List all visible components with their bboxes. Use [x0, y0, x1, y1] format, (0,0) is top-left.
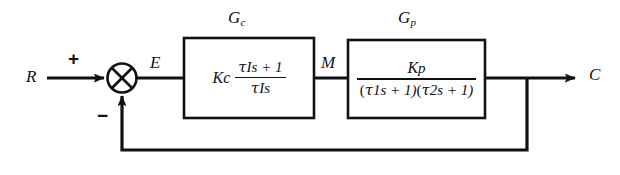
- process-den-factor-2-rest: s + 1): [437, 82, 473, 98]
- controller-label-subscript: c: [240, 16, 245, 28]
- controller-transfer-function: Kc τIs + 1 τIs: [184, 38, 314, 118]
- process-den-tau-2: τ: [422, 81, 430, 99]
- process-denominator: (τ1s + 1)(τ2s + 1): [357, 80, 477, 98]
- process-label-subscript: p: [410, 16, 416, 28]
- controller-block-label: Gc: [228, 9, 245, 28]
- process-label-base: G: [398, 8, 410, 27]
- process-den-tau-1: τ: [365, 81, 373, 99]
- signal-label-reference: R: [26, 68, 36, 85]
- controller-den-rest: s: [264, 80, 270, 96]
- controller-label-base: G: [228, 8, 240, 27]
- process-gain-subscript: p: [418, 60, 426, 76]
- process-numerator: Kp: [404, 60, 428, 78]
- process-transfer-function: Kp (τ1s + 1)(τ2s + 1): [348, 40, 485, 118]
- signal-label-error: E: [150, 54, 160, 71]
- controller-num-rest: s + 1: [252, 59, 283, 75]
- controller-gain: Kc: [212, 70, 230, 86]
- process-gain-base: K: [407, 59, 418, 76]
- process-den-factor-1-rest: s + 1): [381, 82, 417, 98]
- process-block-label: Gp: [398, 9, 416, 28]
- summing-junction-minus-sign: −: [97, 106, 108, 125]
- process-fraction: Kp (τ1s + 1)(τ2s + 1): [357, 60, 477, 98]
- block-diagram-canvas: R + E − M C Gc Gp Kc τIs + 1 τIs Kp (τ1s…: [0, 0, 620, 175]
- controller-denominator: τIs: [248, 78, 273, 96]
- controller-num-tau: τ: [238, 58, 246, 76]
- controller-gain-subscript: c: [223, 69, 230, 86]
- process-den-tau-1-subscript: 1: [373, 82, 381, 98]
- controller-den-tau: τ: [251, 79, 259, 97]
- signal-label-manipulated: M: [321, 54, 335, 71]
- controller-numerator: τIs + 1: [235, 60, 285, 77]
- controller-fraction: τIs + 1 τIs: [235, 60, 285, 97]
- summing-junction-plus-sign: +: [68, 49, 79, 68]
- signal-label-controlled: C: [589, 66, 600, 83]
- controller-gain-base: K: [212, 69, 223, 86]
